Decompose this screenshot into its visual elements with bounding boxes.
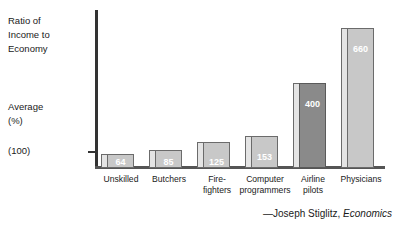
attribution-work-title: Economics bbox=[343, 208, 392, 219]
bar-value-label: 400 bbox=[299, 99, 326, 109]
bar-chart-figure: Ratio of Income to Economy Average (%) (… bbox=[0, 0, 400, 235]
bar-value-label: 125 bbox=[203, 157, 230, 167]
source-attribution: —Joseph Stiglitz, Economics bbox=[0, 208, 392, 219]
bar-value-label: 153 bbox=[251, 152, 278, 162]
y-axis-title: Ratio of Income to Economy bbox=[8, 14, 92, 56]
category-label-line-2: pilots bbox=[282, 185, 344, 196]
y-axis-title-line-2: Income to bbox=[8, 28, 92, 42]
baseline-axis-label: (100) bbox=[8, 145, 92, 156]
bar-value-label: 64 bbox=[107, 157, 134, 167]
average-label-line-1: Average bbox=[8, 100, 92, 114]
bar-value-label: 660 bbox=[347, 44, 374, 54]
bar-front-face bbox=[299, 83, 326, 168]
x-axis-category-label: Physicians bbox=[330, 174, 392, 185]
attribution-author: —Joseph Stiglitz, bbox=[263, 208, 343, 219]
category-label-line-1: Physicians bbox=[330, 174, 392, 185]
average-axis-label: Average (%) bbox=[8, 100, 92, 128]
y-axis-title-line-3: Economy bbox=[8, 42, 92, 56]
y-axis-title-line-1: Ratio of bbox=[8, 14, 92, 28]
plot-area: 6485125153400660 bbox=[98, 20, 385, 168]
average-label-line-2: (%) bbox=[8, 114, 92, 128]
bar-value-label: 85 bbox=[155, 157, 182, 167]
